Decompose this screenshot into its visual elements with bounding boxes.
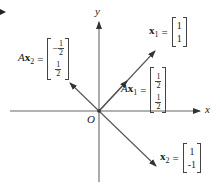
origin-label: O: [87, 114, 95, 125]
fraction-half: 12: [58, 40, 64, 57]
matrix-ax2: −12 12: [47, 38, 69, 80]
matrix-x2: 1 -1: [183, 143, 201, 173]
label-x1: x1 = 1 1: [149, 17, 187, 47]
label-ax1-name: Ax1: [121, 83, 137, 97]
label-ax2: Ax2 = −12 12: [18, 38, 69, 80]
equals-sign: =: [173, 153, 179, 164]
equals-sign: =: [140, 85, 146, 96]
fraction-half: 12: [155, 73, 161, 90]
equals-sign: =: [162, 27, 168, 38]
x-axis-label: x: [205, 104, 210, 115]
matrix-entry: 1: [177, 19, 182, 32]
label-x1-name: x1: [149, 25, 159, 39]
label-ax1: Ax1 = 12 12: [121, 67, 166, 113]
label-ax2-name: Ax2: [18, 52, 34, 66]
origin-dot: [97, 109, 101, 113]
label-x2-name: x2: [160, 151, 170, 165]
matrix-entry: 1: [189, 145, 194, 158]
matrix-x1: 1 1: [172, 17, 187, 47]
equals-sign: =: [37, 54, 43, 65]
matrix-ax1: 12 12: [150, 67, 166, 113]
matrix-entry: -1: [188, 158, 196, 171]
label-x2: x2 = 1 -1: [160, 143, 201, 173]
matrix-entry: 1: [177, 32, 182, 45]
vector-x2: [99, 111, 156, 166]
corner-arrow-icon: [0, 9, 6, 15]
vector-ax2: [70, 83, 99, 111]
y-axis-label: y: [95, 6, 100, 17]
fraction-half: 12: [155, 94, 161, 111]
fraction-half: 12: [55, 61, 61, 78]
